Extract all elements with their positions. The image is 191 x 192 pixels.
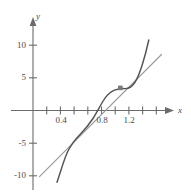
x-axis-arrow-icon <box>165 107 174 114</box>
y-ticklabel-5: 5 <box>4 72 26 82</box>
graph-figure: y x 0.4 0.8 1.2 10 5 -5 -10 <box>0 0 191 192</box>
x-axis-label: x <box>178 105 182 115</box>
y-ticklabel-minus5: -5 <box>1 138 26 148</box>
y-ticklabel-minus10: -10 <box>1 170 26 180</box>
x-ticklabel-0.4: 0.4 <box>52 115 70 125</box>
x-ticklabel-1.2: 1.2 <box>120 115 138 125</box>
tangent-point-marker <box>118 86 123 91</box>
x-ticklabel-0.8: 0.8 <box>93 115 111 125</box>
plot-canvas <box>0 0 191 192</box>
function-curve <box>57 40 149 182</box>
y-ticklabel-10: 10 <box>4 40 26 50</box>
y-axis-label: y <box>36 11 40 21</box>
